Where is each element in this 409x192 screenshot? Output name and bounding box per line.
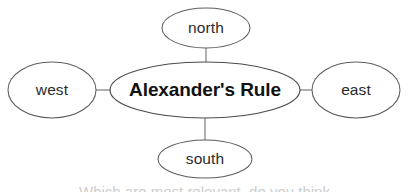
node-west[interactable]: west <box>8 62 96 118</box>
node-west-label: west <box>35 81 69 98</box>
node-east-label: east <box>341 81 371 98</box>
node-east[interactable]: east <box>312 62 400 118</box>
node-north[interactable]: north <box>162 8 250 48</box>
node-center-label: Alexander's Rule <box>129 79 281 100</box>
concept-map-diagram: north west east south Alexander's Rule W… <box>0 0 409 192</box>
web-diagram-canvas: north west east south Alexander's Rule <box>0 0 409 192</box>
node-center[interactable]: Alexander's Rule <box>110 62 300 118</box>
node-south[interactable]: south <box>158 140 252 178</box>
node-south-label: south <box>186 150 224 167</box>
node-north-label: north <box>188 19 224 36</box>
